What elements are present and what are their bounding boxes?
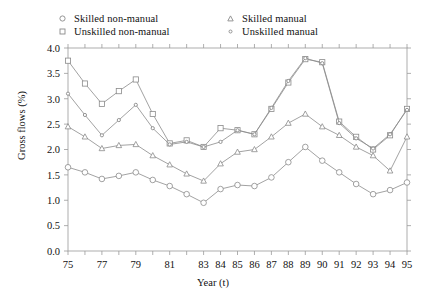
x-tick-label: 81 bbox=[164, 259, 175, 270]
legend-label: Unskilled non-manual bbox=[74, 25, 170, 38]
data-point-marker bbox=[236, 129, 239, 132]
x-tick-label: 95 bbox=[402, 259, 413, 270]
data-point-marker bbox=[66, 92, 69, 95]
data-point-marker bbox=[99, 101, 104, 106]
data-point-marker bbox=[404, 134, 410, 139]
y-tick-label: 3.5 bbox=[47, 68, 60, 79]
data-point-marker bbox=[336, 132, 342, 137]
data-point-marker bbox=[82, 81, 87, 86]
legend-item-skilled-non-manual: Skilled non-manual bbox=[58, 12, 226, 25]
y-tick-label: 0.5 bbox=[47, 220, 60, 231]
chart-legend: Skilled non-manual Skilled manual Unskil… bbox=[58, 12, 398, 38]
data-point-marker bbox=[353, 144, 359, 149]
data-point-marker bbox=[82, 170, 88, 176]
data-point-marker bbox=[269, 134, 275, 139]
data-point-marker bbox=[269, 175, 275, 181]
data-point-marker bbox=[184, 171, 190, 176]
x-tick-label: 79 bbox=[131, 259, 142, 270]
data-point-marker bbox=[184, 191, 190, 197]
data-point-marker bbox=[218, 161, 224, 166]
data-point-marker bbox=[65, 164, 71, 170]
data-point-marker bbox=[167, 183, 173, 189]
data-point-marker bbox=[133, 141, 139, 146]
y-tick-label: 2.5 bbox=[47, 119, 60, 130]
data-point-marker bbox=[319, 124, 325, 129]
data-point-marker bbox=[100, 134, 103, 137]
data-point-marker bbox=[218, 186, 224, 192]
circle-marker-icon bbox=[58, 15, 67, 22]
data-point-marker bbox=[321, 62, 324, 65]
y-tick-label: 0.0 bbox=[47, 246, 60, 257]
data-point-marker bbox=[117, 118, 120, 121]
data-point-marker bbox=[168, 143, 171, 146]
data-point-marker bbox=[355, 137, 358, 140]
data-point-marker bbox=[287, 79, 290, 82]
x-tick-label: 89 bbox=[300, 259, 311, 270]
x-tick-label: 77 bbox=[97, 259, 108, 270]
data-point-marker bbox=[336, 170, 342, 176]
legend-label: Skilled manual bbox=[242, 12, 307, 25]
data-point-marker bbox=[303, 144, 309, 150]
data-point-marker bbox=[235, 182, 241, 188]
data-point-marker bbox=[370, 191, 376, 197]
data-point-marker bbox=[134, 103, 137, 106]
x-tick-label: 84 bbox=[215, 259, 226, 270]
y-axis-title: Gross flows (%) bbox=[16, 81, 27, 171]
x-tick-label: 91 bbox=[334, 259, 345, 270]
data-point-marker bbox=[252, 183, 258, 189]
triangle-marker-icon bbox=[226, 15, 235, 22]
dot-marker-icon bbox=[226, 28, 235, 35]
data-point-marker bbox=[201, 200, 207, 206]
data-point-marker bbox=[286, 159, 292, 165]
data-point-marker bbox=[372, 147, 375, 150]
data-point-marker bbox=[405, 108, 408, 111]
data-point-marker bbox=[185, 140, 188, 143]
data-point-marker bbox=[286, 120, 292, 125]
data-point-marker bbox=[353, 181, 359, 187]
data-point-marker bbox=[252, 147, 258, 152]
data-point-marker bbox=[151, 127, 154, 130]
data-point-marker bbox=[99, 176, 105, 182]
data-point-marker bbox=[319, 158, 325, 164]
legend-label: Unskilled manual bbox=[242, 25, 318, 38]
data-point-marker bbox=[219, 140, 222, 143]
data-point-marker bbox=[167, 162, 173, 167]
y-tick-label: 4.0 bbox=[47, 43, 60, 54]
x-tick-label: 85 bbox=[232, 259, 243, 270]
data-point-marker bbox=[303, 111, 309, 116]
legend-item-unskilled-manual: Unskilled manual bbox=[226, 25, 398, 38]
data-point-marker bbox=[133, 77, 138, 82]
x-tick-label: 87 bbox=[266, 259, 277, 270]
data-point-marker bbox=[83, 113, 86, 116]
x-tick-label: 86 bbox=[249, 259, 260, 270]
x-tick-label: 90 bbox=[317, 259, 328, 270]
data-point-marker bbox=[387, 187, 393, 193]
data-point-marker bbox=[218, 126, 223, 131]
data-point-marker bbox=[388, 133, 391, 136]
legend-label: Skilled non-manual bbox=[74, 12, 158, 25]
data-point-marker bbox=[133, 170, 139, 176]
data-point-marker bbox=[116, 89, 121, 94]
y-tick-label: 1.5 bbox=[47, 170, 60, 181]
data-point-marker bbox=[150, 153, 156, 158]
data-point-marker bbox=[338, 122, 341, 125]
data-point-marker bbox=[116, 173, 122, 179]
x-tick-label: 75 bbox=[63, 259, 74, 270]
chart-figure: Skilled non-manual Skilled manual Unskil… bbox=[0, 0, 426, 298]
data-point-marker bbox=[270, 106, 273, 109]
data-point-marker bbox=[150, 111, 155, 116]
y-tick-label: 1.0 bbox=[47, 195, 60, 206]
x-tick-label: 92 bbox=[351, 259, 362, 270]
data-point-marker bbox=[150, 177, 156, 183]
y-tick-label: 2.0 bbox=[47, 144, 60, 155]
x-tick-label: 93 bbox=[368, 259, 379, 270]
data-point-marker bbox=[370, 153, 376, 158]
chart-plot-area: 75777981838485868788899091929394950.00.5… bbox=[0, 0, 426, 298]
legend-item-skilled-manual: Skilled manual bbox=[226, 12, 398, 25]
x-axis-title: Year (t) bbox=[0, 277, 426, 288]
x-tick-label: 88 bbox=[283, 259, 294, 270]
data-point-marker bbox=[65, 58, 70, 63]
data-point-marker bbox=[404, 180, 410, 186]
data-point-marker bbox=[253, 133, 256, 136]
x-tick-label: 94 bbox=[385, 259, 396, 270]
